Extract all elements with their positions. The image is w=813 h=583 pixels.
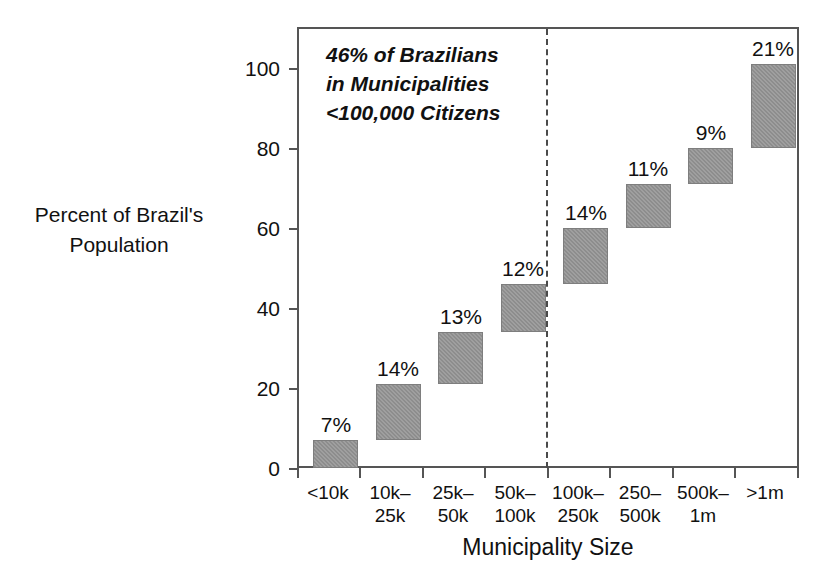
x-tick-label-gt-1m: >1m (734, 481, 796, 504)
x-axis-title: Municipality Size (297, 534, 799, 561)
bar-label-lt-10k: 7% (301, 414, 371, 435)
bar-25k-50k[interactable] (438, 332, 483, 384)
x-tick-label-100k-250k: 100k– 250k (547, 481, 609, 527)
bar-label-250k-500k: 11% (613, 158, 683, 179)
y-tick-40 (289, 308, 299, 310)
y-tick-label-60: 60 (208, 218, 280, 239)
x-tick-3 (484, 468, 486, 478)
bar-label-100k-250k: 14% (551, 202, 621, 223)
bar-500k-1m[interactable] (688, 148, 733, 184)
y-tick-20 (289, 388, 299, 390)
x-tick-0 (297, 468, 299, 478)
bar-label-25k-50k: 13% (426, 306, 496, 327)
y-tick-100 (289, 68, 299, 70)
bar-label-gt-1m: 21% (738, 38, 808, 59)
y-axis-title: Percent of Brazil's Population (14, 200, 224, 260)
x-tick-label-250k-500k: 250– 500k (609, 481, 671, 527)
x-tick-label-10k-25k: 10k– 25k (359, 481, 421, 527)
x-tick-label-500k-1m: 500k– 1m (672, 481, 734, 527)
x-tick-6 (672, 468, 674, 478)
y-tick-label-20: 20 (208, 378, 280, 399)
bar-lt-10k[interactable] (313, 440, 358, 468)
x-tick-4 (547, 468, 549, 478)
x-tick-8 (797, 468, 799, 478)
x-tick-1 (359, 468, 361, 478)
y-tick-label-80: 80 (208, 138, 280, 159)
y-tick-80 (289, 148, 299, 150)
y-tick-label-0: 0 (208, 458, 280, 479)
y-tick-label-100: 100 (208, 58, 280, 79)
x-tick-label-lt-10k: <10k (297, 481, 359, 504)
x-tick-label-25k-50k: 25k– 50k (422, 481, 484, 527)
bar-gt-1m[interactable] (751, 64, 796, 148)
x-tick-label-50k-100k: 50k– 100k (484, 481, 546, 527)
bar-label-500k-1m: 9% (676, 122, 746, 143)
bar-50k-100k[interactable] (501, 284, 546, 332)
annotation-46-percent: 46% of Brazilians in Municipalities <100… (326, 40, 551, 127)
y-tick-label-40: 40 (208, 298, 280, 319)
bar-label-10k-25k: 14% (363, 358, 433, 379)
x-tick-7 (734, 468, 736, 478)
y-tick-60 (289, 228, 299, 230)
chart-figure: Percent of Brazil's Population 0 20 40 6… (0, 0, 813, 583)
x-tick-2 (422, 468, 424, 478)
x-tick-5 (609, 468, 611, 478)
bar-10k-25k[interactable] (376, 384, 421, 440)
bar-250k-500k[interactable] (626, 184, 671, 228)
bar-100k-250k[interactable] (563, 228, 608, 284)
